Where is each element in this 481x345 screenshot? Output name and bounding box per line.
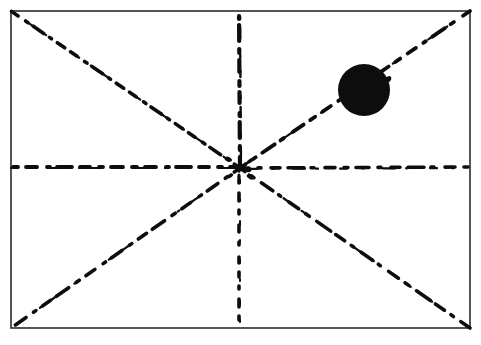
ray-to-right-edge-midpoint (240, 167, 470, 169)
diagram-canvas (0, 0, 481, 345)
filled-circle-marker (338, 64, 390, 116)
radiating-lines-figure (0, 0, 481, 345)
